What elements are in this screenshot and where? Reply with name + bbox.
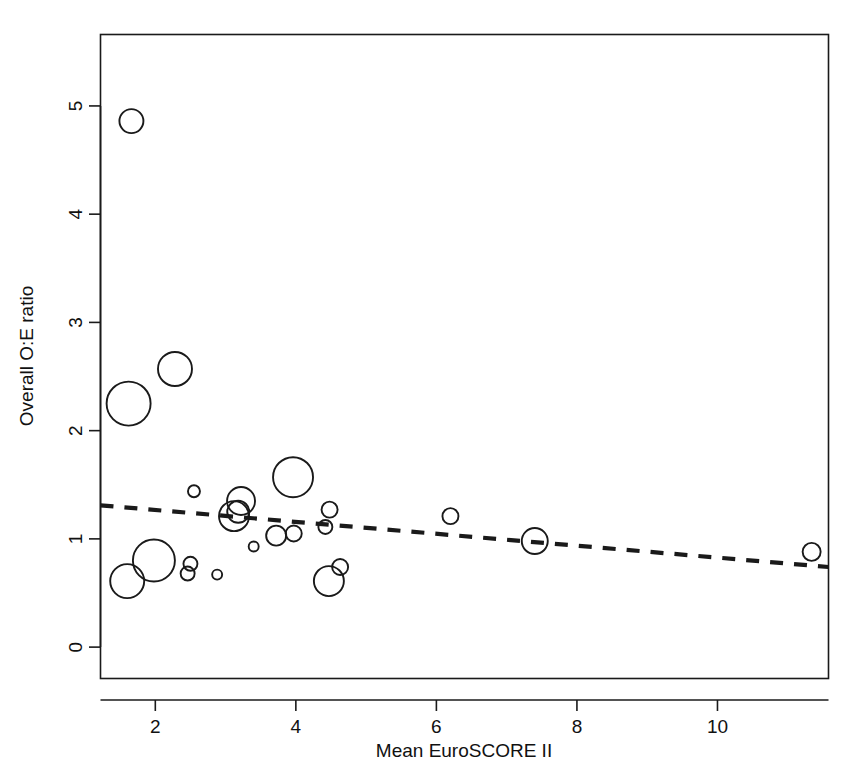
data-point-bubble: [107, 382, 151, 426]
figure-container: 012345 246810 Mean EuroSCORE II Overall …: [0, 0, 855, 772]
y-axis-tick-label: 0: [66, 642, 87, 653]
data-point-bubble: [249, 541, 259, 551]
x-axis-tick-label: 8: [572, 716, 583, 737]
x-axis-tick-label: 4: [291, 716, 302, 737]
y-axis-tick-label: 2: [66, 425, 87, 436]
data-point-bubble: [110, 564, 144, 598]
data-point-bubble: [322, 502, 338, 518]
y-axis-title: Overall O:E ratio: [16, 286, 37, 426]
scatter-plot: 012345 246810 Mean EuroSCORE II Overall …: [0, 0, 855, 772]
data-point-bubble: [181, 567, 195, 581]
data-point-bubble: [133, 540, 175, 582]
data-point-bubble: [227, 501, 249, 523]
data-points-layer: [107, 109, 821, 598]
trend-line: [101, 505, 829, 567]
y-axis-tick-label: 3: [66, 317, 87, 328]
x-axis-title: Mean EuroSCORE II: [376, 740, 552, 761]
trend-line-layer: [101, 505, 829, 567]
data-point-bubble: [188, 485, 200, 497]
data-point-bubble: [158, 352, 192, 386]
data-point-bubble: [119, 109, 143, 133]
y-axis-tick-label: 1: [66, 534, 87, 545]
data-point-bubble: [314, 566, 344, 596]
plot-frame: [101, 35, 829, 679]
data-point-bubble: [266, 526, 286, 546]
data-point-bubble: [318, 520, 332, 534]
data-point-bubble: [286, 525, 302, 541]
data-point-bubble: [442, 508, 458, 524]
data-point-bubble: [212, 570, 222, 580]
x-axis-tick-label: 2: [150, 716, 161, 737]
x-axis: 246810: [101, 700, 829, 737]
x-axis-tick-label: 6: [431, 716, 442, 737]
y-axis-tick-label: 5: [66, 101, 87, 112]
data-point-bubble: [803, 543, 821, 561]
data-point-bubble: [183, 557, 197, 571]
y-axis-tick-label: 4: [66, 208, 87, 219]
x-axis-tick-label: 10: [707, 716, 728, 737]
data-point-bubble: [273, 457, 313, 497]
y-axis: 012345: [66, 101, 101, 653]
